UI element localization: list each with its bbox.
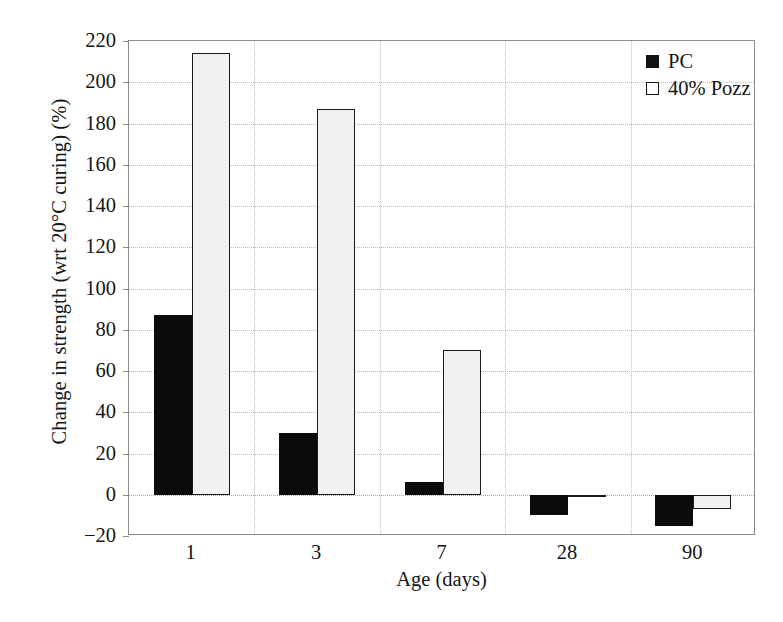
- gridline-x-4: [631, 41, 632, 534]
- x-tick-label-1: 1: [126, 541, 256, 564]
- y-tick-label-200: 200: [0, 71, 116, 92]
- bar-pc-3: [279, 433, 317, 495]
- gridline-x-2: [380, 41, 381, 534]
- bar-pozz-7: [443, 350, 481, 494]
- bar-pozz-1: [192, 53, 230, 494]
- y-tick-mark-20: [123, 454, 129, 455]
- y-tick-label-60: 60: [0, 360, 116, 381]
- y-tick-label-160: 160: [0, 154, 116, 175]
- chart-legend: PC 40% Pozz: [642, 44, 757, 106]
- x-axis-title: Age (days): [128, 568, 755, 591]
- x-tick-label-90: 90: [627, 541, 757, 564]
- chart-figure: Change in strength (wrt 20°C curing) (%)…: [0, 0, 783, 622]
- y-tick-label-80: 80: [0, 319, 116, 340]
- y-tick-mark-140: [123, 206, 129, 207]
- legend-label-pozz: 40% Pozz: [668, 77, 751, 100]
- bar-pozz-3: [317, 109, 355, 495]
- legend-item-pc[interactable]: PC: [646, 48, 751, 75]
- y-tick-label-0: 0: [0, 484, 116, 505]
- y-tick-label-120: 120: [0, 236, 116, 257]
- y-tick-mark-120: [123, 247, 129, 248]
- gridline-x-3: [505, 41, 506, 534]
- legend-label-pc: PC: [668, 50, 693, 73]
- y-tick-mark-60: [123, 371, 129, 372]
- bar-pc-90: [655, 495, 693, 526]
- y-tick-mark-0: [123, 495, 129, 496]
- x-tick-label-28: 28: [502, 541, 632, 564]
- y-tick-mark--20: [123, 536, 129, 537]
- legend-swatch-filled-square-icon: [646, 55, 659, 68]
- y-tick-label-100: 100: [0, 277, 116, 298]
- y-tick-label--20: −20: [0, 525, 116, 546]
- y-tick-mark-80: [123, 330, 129, 331]
- y-tick-label-40: 40: [0, 401, 116, 422]
- y-tick-mark-180: [123, 124, 129, 125]
- legend-item-pozz[interactable]: 40% Pozz: [646, 75, 751, 102]
- x-tick-label-3: 3: [251, 541, 381, 564]
- legend-swatch-open-square-icon: [646, 82, 659, 95]
- bar-pc-7: [405, 482, 443, 494]
- y-tick-label-140: 140: [0, 195, 116, 216]
- x-tick-label-7: 7: [377, 541, 507, 564]
- gridline-x-1: [254, 41, 255, 534]
- y-tick-mark-200: [123, 82, 129, 83]
- bar-pc-28: [530, 495, 568, 516]
- bar-pc-1: [154, 315, 192, 494]
- y-tick-mark-160: [123, 165, 129, 166]
- y-tick-label-20: 20: [0, 442, 116, 463]
- y-tick-mark-100: [123, 289, 129, 290]
- y-axis-title: Change in strength (wrt 20°C curing) (%): [48, 37, 71, 507]
- y-tick-mark-220: [123, 41, 129, 42]
- bar-pozz-28: [568, 495, 606, 497]
- plot-area: [128, 40, 755, 535]
- bar-pozz-90: [693, 495, 731, 509]
- y-tick-label-180: 180: [0, 112, 116, 133]
- y-tick-label-220: 220: [0, 30, 116, 51]
- y-tick-mark-40: [123, 412, 129, 413]
